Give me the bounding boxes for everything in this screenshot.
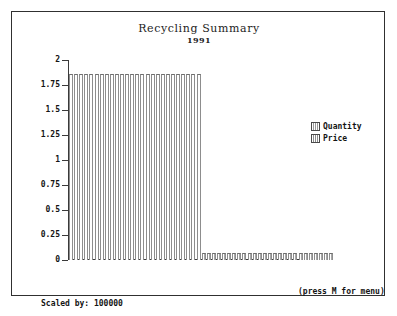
menu-hint: (press M for menu) [298, 287, 385, 296]
bar-price-26 [329, 253, 333, 260]
bar-quantity-18 [156, 74, 160, 260]
bar-quantity-17 [151, 74, 155, 260]
bar-quantity-16 [146, 74, 150, 260]
bar-price-10 [248, 253, 252, 260]
y-axis-tick [62, 110, 68, 111]
bar-quantity-13 [130, 74, 134, 260]
plot-area [68, 61, 300, 260]
legend-item-quantity[interactable]: Quantity [311, 121, 383, 132]
bar-price-11 [253, 253, 257, 260]
y-axis-tick-label: 0.25 [14, 231, 60, 239]
bar-price-17 [283, 253, 287, 260]
bar-quantity-19 [161, 74, 165, 260]
bar-price-6 [227, 253, 231, 260]
legend-label-quantity: Quantity [323, 122, 362, 131]
y-axis-tick [62, 185, 68, 186]
bar-price-4 [217, 253, 221, 260]
bar-price-24 [319, 253, 323, 260]
bar-quantity-24 [186, 74, 190, 260]
bar-quantity-10 [115, 74, 119, 260]
bar-quantity-12 [125, 74, 129, 260]
price-swatch-icon [311, 134, 320, 143]
bar-price-25 [324, 253, 328, 260]
y-axis-tick [62, 135, 68, 136]
bar-price-9 [242, 253, 246, 260]
bar-price-7 [232, 253, 236, 260]
bar-quantity-4 [84, 74, 88, 260]
bar-quantity-1 [69, 74, 73, 260]
bar-quantity-5 [89, 74, 93, 260]
chart-frame: Recycling Summary 1991 21.751.51.2510.75… [11, 11, 385, 296]
chart-subtitle: 1991 [12, 35, 386, 45]
bar-quantity-11 [120, 74, 124, 260]
bar-quantity-14 [135, 74, 139, 260]
y-axis-tick [62, 85, 68, 86]
bar-price-13 [263, 253, 267, 260]
y-axis-tick-label: 1 [14, 156, 60, 164]
bar-quantity-6 [95, 74, 99, 260]
y-axis-tick-label: 0.75 [14, 181, 60, 189]
bar-quantity-21 [171, 74, 175, 260]
y-axis-tick-label: 2 [14, 56, 60, 64]
bar-price-1 [202, 253, 206, 260]
bar-quantity-25 [191, 74, 195, 260]
y-axis-tick-label: 0 [14, 256, 60, 264]
y-axis-labels: 21.751.51.2510.750.50.250 [12, 12, 60, 316]
y-axis-tick [62, 235, 68, 236]
bar-price-21 [304, 253, 308, 260]
bar-price-18 [288, 253, 292, 260]
bar-price-22 [309, 253, 313, 260]
y-axis-tick [62, 210, 68, 211]
bar-price-8 [237, 253, 241, 260]
bar-quantity-8 [105, 74, 109, 260]
bar-price-2 [207, 253, 211, 260]
bar-price-12 [258, 253, 262, 260]
y-axis-tick-label: 1.75 [14, 81, 60, 89]
bar-price-20 [299, 253, 303, 260]
chart-title: Recycling Summary [12, 22, 386, 35]
bar-quantity-2 [74, 74, 78, 260]
legend-item-price[interactable]: Price [311, 133, 383, 144]
bar-quantity-9 [110, 74, 114, 260]
bar-price-5 [222, 253, 226, 260]
bar-quantity-15 [140, 74, 144, 260]
y-axis-tick [62, 260, 68, 261]
legend-label-price: Price [323, 134, 347, 143]
bar-quantity-23 [181, 74, 185, 260]
y-axis-tick-label: 1.25 [14, 131, 60, 139]
scaled-by-label: Scaled by: 100000 [41, 299, 123, 308]
y-axis-tick-label: 1.5 [14, 106, 60, 114]
quantity-swatch-icon [311, 122, 320, 131]
bar-price-15 [273, 253, 277, 260]
bar-price-14 [268, 253, 272, 260]
bar-quantity-26 [197, 74, 201, 260]
y-axis-tick [62, 60, 68, 61]
bar-quantity-3 [79, 74, 83, 260]
y-axis-tick-label: 0.5 [14, 206, 60, 214]
bar-price-3 [212, 253, 216, 260]
bar-quantity-22 [176, 74, 180, 260]
bar-quantity-7 [100, 74, 104, 260]
y-axis-tick [62, 160, 68, 161]
bar-quantity-20 [166, 74, 170, 260]
bar-price-16 [278, 253, 282, 260]
chart-legend: Quantity Price [311, 121, 383, 149]
bar-price-19 [293, 253, 297, 260]
bar-price-23 [314, 253, 318, 260]
